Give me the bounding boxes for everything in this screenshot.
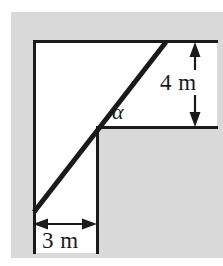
- vertical-dimension-label: 4 m: [160, 70, 197, 96]
- geometry-diagram-svg: [0, 0, 223, 266]
- angle-alpha-label: α: [112, 99, 124, 125]
- geometry-figure: 4 m 3 m α: [0, 0, 223, 266]
- horizontal-dimension-label: 3 m: [42, 228, 79, 254]
